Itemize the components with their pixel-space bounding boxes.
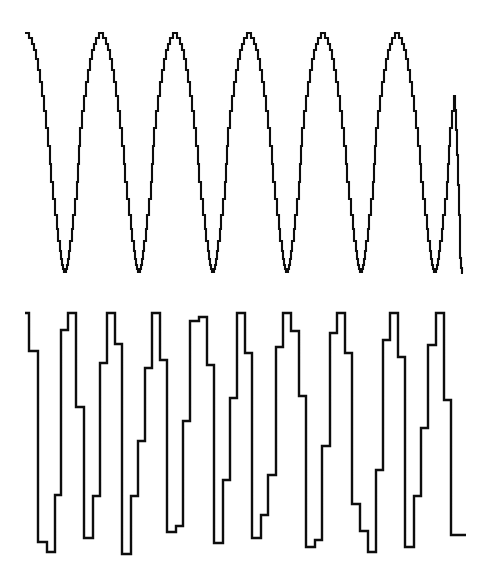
upper-waveform-panel (0, 0, 488, 291)
upper-waveform-plot (0, 0, 488, 291)
waveform-figure (0, 0, 488, 582)
lower-waveform-panel (0, 291, 488, 582)
lower-waveform-plot (0, 291, 488, 582)
